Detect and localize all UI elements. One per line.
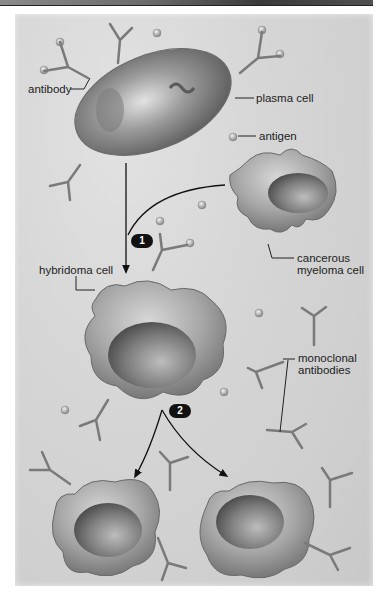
label-monoclonal-line2: antibodies — [298, 364, 350, 376]
daughter-cell-left — [52, 480, 159, 576]
label-antibody: antibody — [28, 83, 71, 95]
hybridoma-cell — [85, 281, 226, 399]
label-antigen: antigen — [259, 130, 297, 142]
step-badge-1: 1 — [131, 234, 153, 248]
plasma-cell — [59, 28, 246, 177]
label-hybridoma-cell: hybridoma cell — [39, 264, 113, 276]
label-myeloma-line2: myeloma cell — [297, 264, 364, 276]
label-monoclonal-line1: monoclonal — [298, 352, 357, 364]
label-plasma-cell: plasma cell — [256, 92, 314, 104]
label-myeloma-line1: cancerous — [297, 252, 350, 264]
step-badge-2: 2 — [169, 404, 191, 418]
myeloma-cell — [230, 149, 336, 232]
daughter-cell-right — [200, 481, 314, 578]
